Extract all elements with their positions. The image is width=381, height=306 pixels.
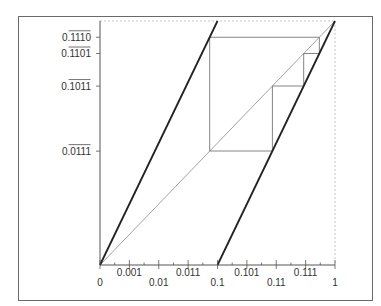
y-tick-label: 0.1110 — [62, 32, 92, 43]
map-branch-1 — [100, 21, 218, 265]
figure-frame — [19, 17, 373, 301]
x-tick-label: 0.1 — [211, 277, 225, 288]
x-tick-label: 0.101 — [234, 267, 259, 278]
x-tick-label: 0 — [97, 277, 103, 288]
x-tick-label: 0.001 — [117, 267, 142, 278]
plot-area: 00.0010.010.0110.10.1010.110.11110.01110… — [61, 21, 338, 288]
y-tick-label: 0.0111 — [62, 146, 92, 157]
cobweb-diagram: 00.0010.010.0110.10.1010.110.11110.01110… — [0, 0, 381, 306]
diagonal-line — [100, 21, 335, 265]
x-tick-label: 0.01 — [149, 277, 169, 288]
y-tick-label: 0.1011 — [61, 81, 91, 92]
x-tick-label: 0.111 — [294, 267, 318, 278]
x-tick-label: 0.11 — [267, 277, 286, 288]
y-tick-label: 0.1101 — [61, 48, 91, 59]
x-tick-label: 0.011 — [176, 267, 201, 278]
map-branch-2 — [218, 21, 336, 265]
x-tick-label: 1 — [332, 277, 338, 288]
